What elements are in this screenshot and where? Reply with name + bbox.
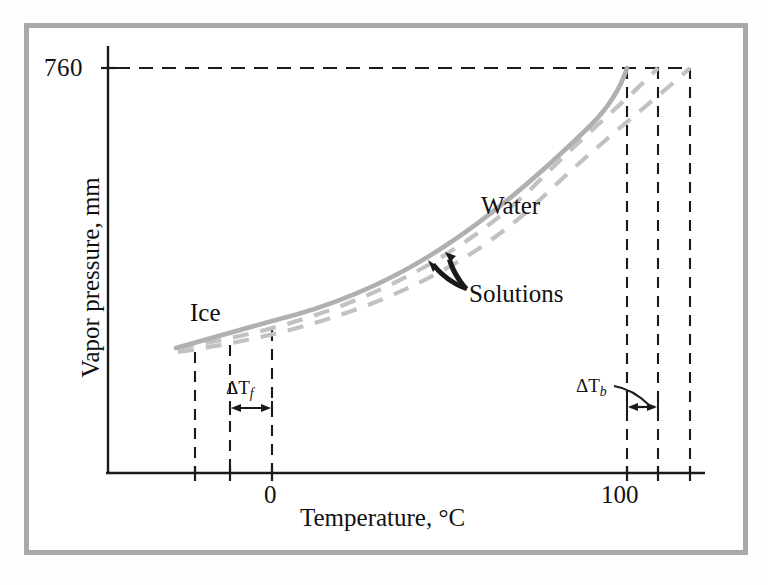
delta-tb-label: ΔTb [576,376,607,399]
delta-tf-label: ΔTf [226,378,254,401]
delta-tb-prefix: ΔT [576,375,600,396]
x-axis-tick-label-100: 100 [601,482,639,507]
phase-diagram-plot [0,0,768,585]
solutions-curve-label: Solutions [469,281,563,306]
solutions-leader-arrows [428,252,468,291]
figure-canvas: 760 0 100 Temperature, °C Vapor pressure… [0,0,768,585]
delta-tf-arrow [230,401,272,415]
water-curve-label: Water [481,193,540,218]
freezing-point-reference-lines [195,330,272,473]
delta-tf-subscript: f [250,386,254,401]
curve-solution-1 [178,68,658,348]
y-axis-title: Vapor pressure, mm [78,148,103,408]
ice-curve-label: Ice [190,300,221,325]
delta-tb-subscript: b [600,384,607,399]
y-axis-tick-label-760: 760 [44,55,83,80]
x-axis-title: Temperature, °C [300,505,465,530]
delta-tf-prefix: ΔT [226,377,250,398]
delta-tb-leader-line [614,386,650,406]
delta-tb-arrow [614,386,658,414]
x-axis-tick-label-0: 0 [264,482,277,507]
